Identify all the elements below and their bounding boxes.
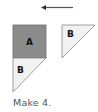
quilt-diagram: A B B — [0, 0, 98, 112]
triangle-b-right: B — [62, 25, 95, 58]
instruction-caption: Make 4. — [13, 97, 52, 108]
square-a-label: A — [26, 37, 33, 47]
square-a: A — [13, 25, 46, 58]
triangle-b-right-label: B — [67, 29, 74, 39]
triangle-b-lower-label: B — [17, 65, 24, 75]
arrow-left-icon — [41, 5, 73, 10]
triangle-b-lower: B — [13, 58, 46, 92]
